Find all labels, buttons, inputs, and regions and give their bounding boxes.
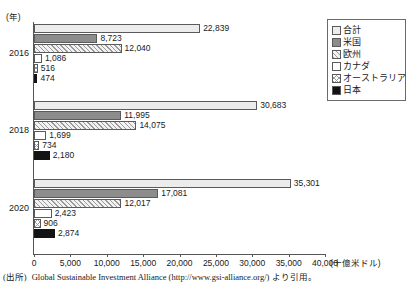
bar-米国 — [34, 189, 158, 198]
bar-欧州 — [34, 121, 136, 130]
bar-value-label: 14,075 — [139, 120, 165, 131]
bar-row: 35,301 — [34, 179, 325, 188]
bar-日本 — [34, 229, 55, 238]
legend-item-australia[interactable]: オーストラリア — [332, 72, 402, 84]
bar-カナダ — [34, 131, 46, 140]
legend-label: 合計 — [343, 25, 361, 36]
bar-value-label: 35,301 — [294, 178, 320, 189]
x-tick — [289, 254, 290, 257]
x-tick — [70, 254, 71, 257]
legend-label: カナダ — [343, 61, 370, 72]
bar-value-label: 906 — [44, 218, 58, 229]
x-tick — [252, 254, 253, 257]
x-tick-label: 15,000 — [130, 258, 156, 268]
bar-カナダ — [34, 209, 52, 218]
bar-日本 — [34, 151, 50, 160]
bar-row: 17,081 — [34, 189, 325, 198]
bar-row: 906 — [34, 219, 325, 228]
bar-value-label: 2,180 — [53, 150, 74, 161]
bar-row: 12,040 — [34, 44, 325, 53]
bar-value-label: 12,040 — [125, 43, 151, 54]
x-tick-label: 0 — [32, 258, 37, 268]
bar-row: 12,017 — [34, 199, 325, 208]
bar-row: 8,723 — [34, 34, 325, 43]
bar-合計 — [34, 179, 291, 188]
bar-合計 — [34, 101, 257, 110]
plot-area: 22,8398,72312,0401,086516474201630,68311… — [33, 22, 325, 255]
bar-group: 35,30117,08112,0172,4239062,874 — [34, 179, 325, 239]
x-tick-label: 10,000 — [94, 258, 120, 268]
bar-row: 734 — [34, 141, 325, 150]
y-axis-unit-label: (年) — [6, 12, 21, 22]
bar-value-label: 30,683 — [260, 100, 286, 111]
legend-item-total[interactable]: 合計 — [332, 24, 402, 36]
chart-figure: (年) 22,8398,72312,0401,086516474201630,6… — [0, 0, 414, 288]
legend-label: 欧州 — [343, 49, 361, 60]
legend-label: オーストラリア — [343, 73, 406, 84]
bar-オーストラリア — [34, 141, 39, 150]
bar-row: 30,683 — [34, 101, 325, 110]
bar-row: 2,874 — [34, 229, 325, 238]
x-tick — [107, 254, 108, 257]
bar-row: 14,075 — [34, 121, 325, 130]
bar-row: 516 — [34, 64, 325, 73]
chart-legend: 合計米国欧州カナダオーストラリア日本 — [327, 19, 406, 101]
legend-swatch-icon-japan — [332, 86, 341, 95]
bar-オーストラリア — [34, 64, 38, 73]
x-tick-label: 5,000 — [60, 258, 81, 268]
legend-item-japan[interactable]: 日本 — [332, 84, 402, 96]
bar-合計 — [34, 24, 200, 33]
legend-swatch-icon-europe — [332, 50, 341, 59]
bar-欧州 — [34, 44, 122, 53]
x-tick-label: 20,000 — [167, 258, 193, 268]
bar-row: 2,423 — [34, 209, 325, 218]
bar-オーストラリア — [34, 219, 41, 228]
bar-row: 1,699 — [34, 131, 325, 140]
x-tick — [180, 254, 181, 257]
bar-value-label: 2,423 — [55, 208, 76, 219]
legend-swatch-icon-australia — [332, 74, 341, 83]
legend-swatch-icon-us — [332, 38, 341, 47]
x-tick — [325, 254, 326, 257]
bar-欧州 — [34, 199, 121, 208]
source-text: Global Sustainable Investment Alliance (… — [32, 272, 317, 282]
legend-item-us[interactable]: 米国 — [332, 36, 402, 48]
bar-value-label: 2,874 — [58, 228, 79, 239]
bar-value-label: 17,081 — [161, 188, 187, 199]
bar-value-label: 474 — [40, 73, 54, 84]
legend-swatch-icon-total — [332, 26, 341, 35]
x-axis-unit-label: (十億米ドル) — [330, 258, 381, 268]
category-label-2016: 2016 — [9, 48, 29, 59]
legend-label: 米国 — [343, 37, 361, 48]
bar-value-label: 22,839 — [203, 23, 229, 34]
bar-row: 2,180 — [34, 151, 325, 160]
legend-item-europe[interactable]: 欧州 — [332, 48, 402, 60]
x-tick-label: 25,000 — [203, 258, 229, 268]
bar-米国 — [34, 34, 97, 43]
bar-row: 1,086 — [34, 54, 325, 63]
bar-row: 11,995 — [34, 111, 325, 120]
bar-group: 22,8398,72312,0401,086516474 — [34, 24, 325, 84]
legend-item-canada[interactable]: カナダ — [332, 60, 402, 72]
bar-value-label: 12,017 — [124, 198, 150, 209]
bar-米国 — [34, 111, 121, 120]
bar-value-label: 8,723 — [100, 33, 121, 44]
source-note: (出所)Global Sustainable Investment Allian… — [3, 272, 317, 283]
bar-日本 — [34, 74, 37, 83]
bar-row: 22,839 — [34, 24, 325, 33]
category-label-2020: 2020 — [9, 203, 29, 214]
x-tick — [216, 254, 217, 257]
legend-label: 日本 — [343, 85, 361, 96]
x-tick — [143, 254, 144, 257]
x-axis: 05,00010,00015,00020,00025,00030,00035,0… — [34, 254, 325, 272]
bar-group: 30,68311,99514,0751,6997342,180 — [34, 101, 325, 161]
x-tick — [34, 254, 35, 257]
category-label-2018: 2018 — [9, 125, 29, 136]
legend-swatch-icon-canada — [332, 62, 341, 71]
x-tick-label: 30,000 — [239, 258, 265, 268]
source-label: (出所) — [3, 272, 27, 282]
x-tick-label: 35,000 — [276, 258, 302, 268]
bar-row: 474 — [34, 74, 325, 83]
bar-カナダ — [34, 54, 42, 63]
